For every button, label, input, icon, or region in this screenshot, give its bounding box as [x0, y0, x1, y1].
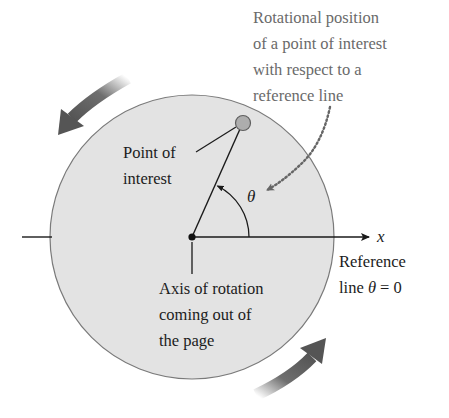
point-label-line: Point of [123, 140, 176, 166]
axis-of-rotation-label: Axis of rotation coming out of the page [159, 276, 264, 354]
axis-label-line: Axis of rotation [159, 276, 264, 302]
reference-label-prefix: line [339, 278, 368, 297]
angle-theta-label: θ [247, 184, 255, 210]
callout-rotational-position: Rotational position of a point of intere… [253, 5, 387, 109]
callout-line: with respect to a [253, 57, 387, 83]
point-of-interest-label: Point of interest [123, 140, 176, 192]
callout-line: of a point of interest [253, 31, 387, 57]
callout-line: reference line [253, 83, 387, 109]
reference-label-line: line θ = 0 [339, 275, 406, 301]
reference-label-line: Reference [339, 249, 406, 275]
axis-label-line: the page [159, 328, 264, 354]
point-of-interest [236, 116, 251, 131]
point-label-line: interest [123, 166, 176, 192]
reference-label-theta: θ [368, 278, 376, 297]
reference-label-suffix: = 0 [376, 278, 402, 297]
axis-of-rotation-dot [188, 233, 195, 240]
callout-line: Rotational position [253, 5, 387, 31]
x-axis-label: x [377, 224, 385, 250]
axis-label-line: coming out of [159, 302, 264, 328]
reference-line-label: Reference line θ = 0 [339, 249, 406, 301]
